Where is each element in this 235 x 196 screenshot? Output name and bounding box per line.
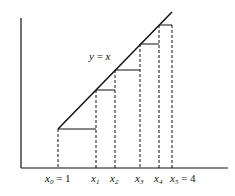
label-x5: x5 = 4 — [169, 172, 196, 186]
label-x4: x4 — [153, 172, 163, 186]
line-label: y = x — [88, 50, 111, 62]
label-x2: x2 — [109, 172, 119, 186]
label-x3: x3 — [134, 172, 144, 186]
x-tick-labels: x0 = 1 x1 x2 x3 x4 x5 = 4 — [44, 172, 196, 186]
label-x0: x0 = 1 — [44, 172, 71, 186]
label-x1: x1 — [90, 172, 99, 186]
vertical-dashed-lines — [58, 25, 172, 168]
diagram-canvas: y = x x0 = 1 x1 x2 x3 x4 x5 = 4 — [0, 0, 235, 196]
